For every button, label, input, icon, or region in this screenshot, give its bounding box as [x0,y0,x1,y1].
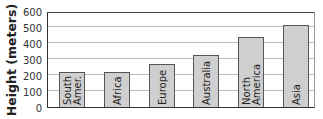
bar-australia: Australia [193,55,219,107]
bar-asia: Asia [283,25,309,107]
category-label: Africa [113,76,123,105]
bar-africa: Africa [104,72,130,107]
bar-chart: Height (meters) 0100200300400500600 Sout… [0,0,323,119]
category-label: Europe [158,70,168,105]
plot-area: SouthAmer.AfricaEuropeAustraliaNorthAmer… [47,12,315,108]
category-label: Asia [292,84,302,105]
bar-europe: Europe [149,64,175,107]
y-tick-label: 300 [18,55,42,66]
bar-south-amer: SouthAmer. [59,72,85,107]
y-tick-label: 400 [18,39,42,50]
y-tick-label: 100 [18,87,42,98]
y-axis-title: Height (meters) [4,4,19,116]
gridline [48,58,314,59]
category-label: Australia [202,61,212,105]
bar-north-america: NorthAmerica [238,37,264,107]
gridline [48,26,314,27]
y-tick-label: 500 [18,23,42,34]
gridline [48,90,314,91]
gridline [48,74,314,75]
y-tick-label: 200 [18,71,42,82]
gridline [48,42,314,43]
y-tick-label: 600 [18,7,42,18]
category-label: NorthAmerica [242,64,262,105]
y-tick-label: 0 [18,103,42,114]
category-label: SouthAmer. [63,76,83,105]
